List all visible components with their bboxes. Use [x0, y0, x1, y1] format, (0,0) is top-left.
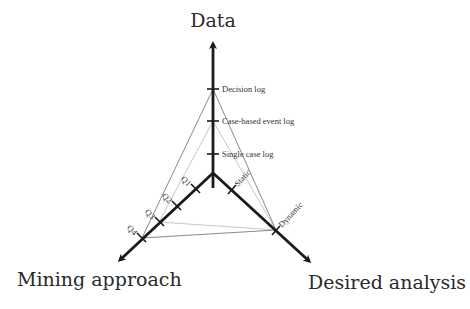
- axis-title-desired-analysis: Desired analysis: [308, 271, 466, 293]
- label-decision-log: Decision log: [222, 84, 266, 94]
- label-q4: Q4: [125, 223, 140, 238]
- axis-title-mining-approach: Mining approach: [17, 268, 182, 290]
- label-q1: Q1: [179, 174, 193, 188]
- label-single-case-log: Single case log: [222, 149, 274, 159]
- axis-title-data: Data: [190, 9, 236, 31]
- label-q3: Q3: [143, 207, 157, 221]
- label-case-based-event-log: Case-based event log: [222, 116, 295, 126]
- label-dynamic: Dynamic: [276, 200, 305, 230]
- radar-diagram: Single case log Case-based event log Dec…: [0, 0, 470, 309]
- label-q2: Q2: [160, 191, 174, 205]
